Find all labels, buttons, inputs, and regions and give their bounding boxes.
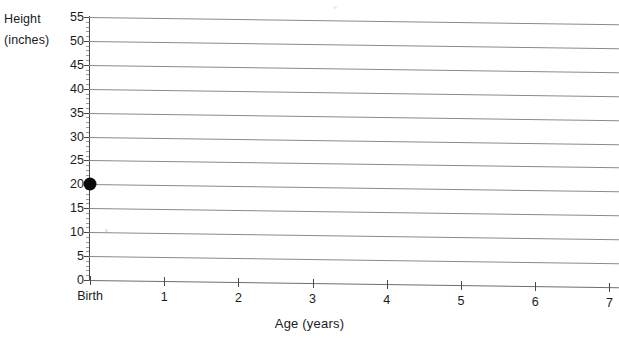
x-axis-title: Age (years) [0,316,619,331]
scan-speckle [333,6,337,9]
gridline-55 [89,17,619,25]
gridline-20 [89,184,619,192]
x-tick-label-7: 7 [606,296,613,310]
gridline-10 [89,232,619,240]
y-tick-label-0: 0 [58,274,84,286]
gridline-5 [89,256,619,264]
gridline-25 [89,160,619,168]
gridline-30 [89,137,619,145]
gridline-35 [89,113,619,121]
x-tick-mark-5 [461,281,462,290]
y-tick-label-10: 10 [58,226,84,238]
x-tick-label-1: 1 [161,290,168,304]
y-axis-tick-labels: 0510152025303540455055 [56,0,84,300]
y-tick-label-5: 5 [58,250,84,262]
gridlines [89,0,619,343]
gridline-15 [89,208,619,216]
y-tick-label-15: 15 [58,202,84,214]
x-tick-mark-3 [313,279,314,288]
y-tick-label-40: 40 [58,83,84,95]
x-tick-mark-1 [164,277,165,286]
gridline-50 [89,41,619,49]
x-tick-mark-7 [609,283,610,292]
x-tick-mark-0 [90,276,91,285]
y-tick-label-55: 55 [58,11,84,23]
scan-speckle [105,229,108,232]
x-tick-label-5: 5 [458,294,465,308]
gridline-40 [89,89,619,97]
x-tick-mark-6 [535,282,536,291]
x-tick-label-4: 4 [383,293,390,307]
x-tick-mark-4 [387,280,388,289]
growth-chart: Height (inches) 0510152025303540455055 B… [0,0,619,343]
y-tick-label-30: 30 [58,131,84,143]
data-point [84,178,97,191]
x-tick-mark-2 [238,278,239,287]
y-tick-label-25: 25 [58,154,84,166]
x-tick-label-0: Birth [77,289,103,303]
x-tick-label-2: 2 [235,291,242,305]
y-tick-label-50: 50 [58,35,84,47]
y-tick-label-45: 45 [58,59,84,71]
x-axis-line [89,280,619,288]
gridline-45 [89,65,619,73]
y-tick-label-20: 20 [58,178,84,190]
y-tick-label-35: 35 [58,107,84,119]
x-tick-label-3: 3 [309,292,316,306]
x-tick-label-6: 6 [532,295,539,309]
